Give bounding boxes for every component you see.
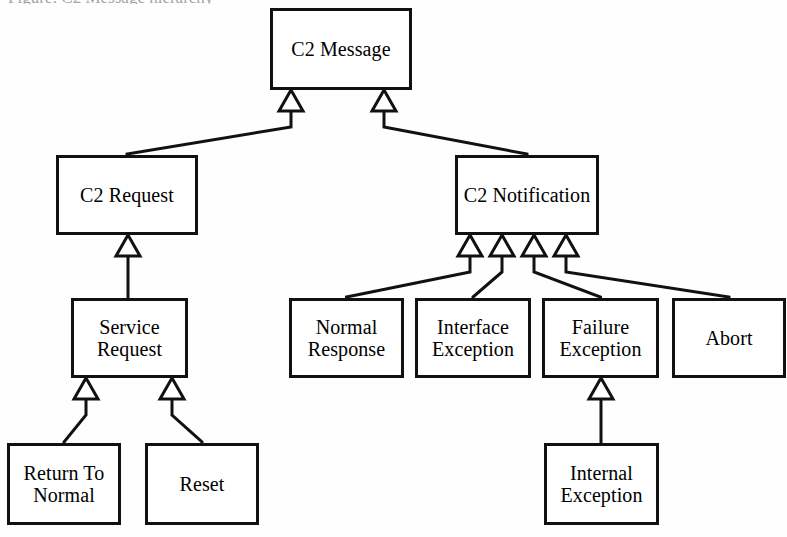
uml-class-normal-response[interactable]: Normal Response [289,298,404,378]
uml-class-c2-request[interactable]: C2 Request [56,155,198,235]
generalization-arrowhead-c2-request [279,90,303,111]
uml-class-label: Normal Response [304,316,389,361]
uml-class-c2-message[interactable]: C2 Message [270,8,412,90]
uml-class-label: Abort [701,327,756,349]
uml-class-interface-exception[interactable]: Interface Exception [415,298,531,378]
generalization-arrowhead-c2-notification [372,90,396,111]
uml-class-reset[interactable]: Reset [145,443,259,525]
uml-class-label: Internal Exception [557,462,647,507]
generalization-edge-reset-to-service-request [172,399,202,443]
uml-class-failure-exception[interactable]: Failure Exception [542,298,659,378]
generalization-edge-interface-exception-to-c2-notification [473,256,502,298]
uml-class-c2-notification[interactable]: C2 Notification [455,155,599,235]
generalization-arrowhead-return-to-normal [74,378,98,399]
uml-class-internal-exception[interactable]: Internal Exception [544,443,659,525]
generalization-arrowhead-service-request [116,235,140,256]
uml-class-label: Interface Exception [428,316,518,361]
uml-class-abort[interactable]: Abort [672,298,786,378]
generalization-edge-c2-notification-to-c2-message [384,111,527,155]
generalization-arrowhead-normal-response [458,235,482,256]
uml-class-return-to-normal[interactable]: Return To Normal [7,443,121,525]
uml-class-label: Reset [176,473,229,495]
generalization-edge-return-to-normal-to-service-request [64,399,86,443]
generalization-arrowhead-reset [160,378,184,399]
generalization-arrowhead-failure-exception [522,235,546,256]
uml-class-label: Failure Exception [556,316,646,361]
uml-class-label: C2 Message [287,38,394,60]
uml-class-diagram-canvas: Figure: C2 Message hierarchy C2 MessageC… [0,0,787,537]
generalization-arrowhead-abort [554,235,578,256]
generalization-arrowhead-internal-exception [589,378,613,399]
uml-class-service-request[interactable]: Service Request [71,298,188,378]
uml-class-label: Service Request [93,316,166,361]
uml-class-label: Return To Normal [20,462,109,507]
generalization-edge-normal-response-to-c2-notification [347,256,471,298]
generalization-edge-c2-request-to-c2-message [127,111,291,155]
uml-class-label: C2 Notification [460,184,594,206]
generalization-arrowhead-interface-exception [490,235,514,256]
uml-class-label: C2 Request [76,184,178,206]
